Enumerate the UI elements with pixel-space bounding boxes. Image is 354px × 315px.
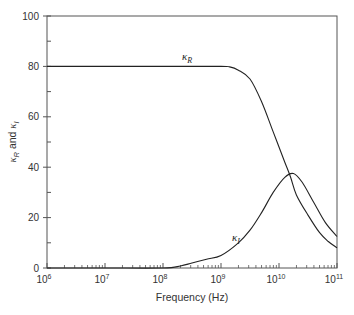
x-tick-label: 106 xyxy=(36,273,51,285)
x-tick-label: 1011 xyxy=(325,273,343,285)
plot-frame xyxy=(47,16,337,268)
curves xyxy=(47,66,337,268)
x-tick-label: 1010 xyxy=(267,273,286,285)
x-axis-ticks: 10610710810910101011 xyxy=(36,263,343,285)
y-tick-label: 80 xyxy=(28,61,40,72)
y-axis-title: κR and κI xyxy=(6,122,21,163)
y-tick-label: 20 xyxy=(28,212,40,223)
y-tick-label: 0 xyxy=(33,263,39,274)
kappa-i-label: κI xyxy=(232,231,240,246)
x-tick-label: 108 xyxy=(152,273,167,285)
kappa-r-curve xyxy=(47,66,337,247)
curve-labels: κRκI xyxy=(182,50,240,246)
y-tick-label: 60 xyxy=(28,111,40,122)
y-tick-label: 100 xyxy=(22,11,39,22)
chart: 10610710810910101011 020406080100 κRκI F… xyxy=(0,0,354,315)
y-tick-label: 40 xyxy=(28,162,40,173)
x-tick-label: 109 xyxy=(210,273,225,285)
x-tick-label: 107 xyxy=(94,273,109,285)
kappa-r-label: κR xyxy=(182,50,192,65)
x-axis-title: Frequency (Hz) xyxy=(156,291,228,303)
